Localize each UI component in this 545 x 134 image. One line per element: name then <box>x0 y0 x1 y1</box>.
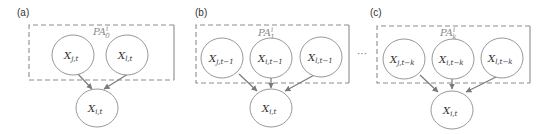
parent-node-b-2: Xi,t−1 <box>250 38 292 78</box>
parent-node-c-3: Xl,t−k <box>481 38 523 78</box>
edge-a-2 <box>104 74 128 89</box>
edge-a-1 <box>78 74 92 89</box>
parent-node-b-3: Xl,t−1 <box>300 37 342 77</box>
parent-node-a-1: Xj,t <box>52 35 94 75</box>
parent-node-c-2: Xi,t−k <box>432 39 474 79</box>
parent-node-c-1: Xj,t−k <box>383 39 425 79</box>
parent-node-a-2: Xl,t <box>106 35 148 75</box>
causal-graph-figure: (a) PAi0 Xj,t Xl,t Xi,t (b) PAi1 <box>0 0 545 134</box>
panel-c-label: (c) <box>370 7 382 18</box>
child-node-c: Xi,t <box>431 91 473 129</box>
pa-label-a: PAi0 <box>92 25 110 40</box>
child-node-b: Xi,t <box>250 89 292 127</box>
panel-a: (a) PAi0 Xj,t Xl,t Xi,t <box>17 7 174 127</box>
parent-node-b-1: Xj,t−1 <box>201 38 243 78</box>
panel-a-label: (a) <box>17 7 29 18</box>
panel-b: (b) PAi1 Xj,t−1 Xi,t−1 Xl,t−1 Xi,t <box>195 7 349 127</box>
ellipsis-separator: ··· <box>357 48 367 59</box>
panel-b-label: (b) <box>195 7 207 18</box>
panel-c: (c) PAik Xj,t−k Xi,t−k Xl,t−k Xi,t <box>370 7 530 129</box>
child-node-a: Xi,t <box>76 89 118 127</box>
